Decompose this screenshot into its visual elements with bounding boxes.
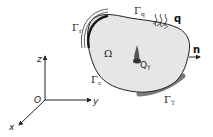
y-axis-label: y xyxy=(92,96,99,106)
heat-transfer-domain-diagram: Γr Γq q n Ω QT Γc ΓT z y x O xyxy=(0,0,213,137)
flux-boundary-label: Γq xyxy=(134,5,145,18)
radiation-boundary-label: Γr xyxy=(72,22,82,34)
domain-label: Ω xyxy=(104,48,112,59)
temperature-boundary-label: ΓT xyxy=(164,94,175,106)
x-axis-label: x xyxy=(8,122,15,132)
normal-label: n xyxy=(193,44,200,55)
origin-label: O xyxy=(34,95,41,105)
coordinate-axes xyxy=(19,56,91,125)
flux-label: q xyxy=(174,13,181,24)
z-axis-label: z xyxy=(36,54,42,64)
x-axis xyxy=(19,100,45,125)
